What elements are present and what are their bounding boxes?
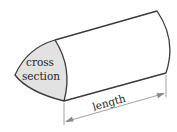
solid-body-outline — [55, 11, 170, 101]
arrowhead-left-icon — [65, 117, 74, 123]
arrowhead-right-icon — [157, 93, 166, 98]
cross-section-label-line2: section — [22, 70, 60, 82]
cross-section-label-line1: cross — [26, 56, 54, 68]
diagram-canvas: cross section length — [0, 0, 177, 132]
